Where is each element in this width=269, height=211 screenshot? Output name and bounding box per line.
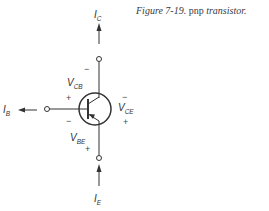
ic-arrow <box>97 23 102 44</box>
vbe-label: VBE <box>70 132 86 145</box>
ib-label: IB <box>3 104 11 117</box>
ie-arrow <box>97 164 102 186</box>
vcb-minus-sign: − <box>84 64 89 74</box>
vce-minus-sign: − <box>122 92 127 102</box>
ib-arrow <box>18 108 37 113</box>
vce-plus-sign: + <box>123 117 128 127</box>
vcb-label: VCB <box>67 77 83 90</box>
ic-label: IC <box>94 9 102 22</box>
vbe-minus-sign: − <box>66 116 71 126</box>
vcb-plus-sign: + <box>66 93 71 103</box>
collector-line <box>88 97 99 104</box>
collector-terminal <box>97 57 102 62</box>
pnp-transistor-diagram: IC IB IE − VCB + − VBE + − VCE + <box>0 0 269 211</box>
vbe-plus-sign: + <box>85 144 90 154</box>
base-terminal <box>45 107 50 112</box>
ie-label: IE <box>94 193 102 206</box>
emitter-terminal <box>97 156 102 161</box>
vce-label: VCE <box>118 102 134 115</box>
